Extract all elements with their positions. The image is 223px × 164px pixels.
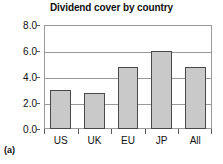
x-tick-mark <box>145 129 146 134</box>
y-tick-mark <box>36 25 40 26</box>
panel-label: (a) <box>4 145 15 155</box>
x-tick-mark <box>44 129 45 134</box>
plot-area <box>44 25 212 129</box>
x-tick-label-jp: JP <box>156 135 168 146</box>
x-tick-mark <box>78 129 79 134</box>
gridline-2.0 <box>45 104 211 105</box>
y-tick-mark <box>36 103 40 104</box>
chart-title: Dividend cover by country <box>0 2 223 13</box>
y-tick-label: 8.0 <box>23 20 37 31</box>
y-tick-label: 0.0 <box>23 124 37 135</box>
y-tick-mark <box>36 129 40 130</box>
y-tick-label: 6.0 <box>23 46 37 57</box>
gridline-6.0 <box>45 52 211 53</box>
bar-chart-figure: Dividend cover by country 0.02.04.06.08.… <box>0 0 223 164</box>
x-axis: USUKEUJPAll <box>44 129 212 159</box>
y-tick-mark <box>36 77 40 78</box>
x-tick-mark <box>211 129 212 134</box>
x-tick-mark <box>178 129 179 134</box>
x-tick-label-uk: UK <box>87 135 101 146</box>
gridline-4.0 <box>45 78 211 79</box>
x-tick-label-eu: EU <box>121 135 135 146</box>
y-tick-mark <box>36 51 40 52</box>
y-tick-label: 2.0 <box>23 98 37 109</box>
x-tick-mark <box>111 129 112 134</box>
y-axis: 0.02.04.06.08.0 <box>0 25 40 129</box>
y-tick-label: 4.0 <box>23 72 37 83</box>
x-tick-label-us: US <box>54 135 68 146</box>
x-tick-label-all: All <box>190 135 201 146</box>
